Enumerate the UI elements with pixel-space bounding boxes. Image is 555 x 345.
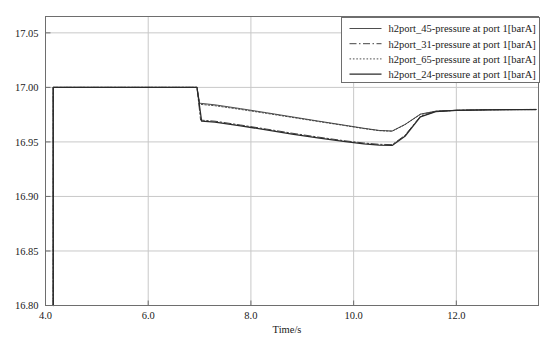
y-tick-label: 17.05: [15, 28, 39, 39]
x-tick-label: 8.0: [244, 310, 257, 321]
x-tick-label: 12.0: [447, 310, 465, 321]
legend-label-3: h2port_24-pressure at port 1[barA]: [389, 69, 536, 80]
x-tick-label: 10.0: [344, 310, 362, 321]
x-tick-label: 6.0: [142, 310, 155, 321]
chart-container: 16.8016.8516.9016.9517.0017.054.06.08.01…: [0, 0, 555, 345]
x-tick-label: 4.0: [39, 310, 52, 321]
y-tick-label: 16.90: [15, 191, 39, 202]
legend-label-2: h2port_65-pressure at port 1[barA]: [389, 54, 536, 65]
y-tick-label: 16.85: [15, 246, 39, 257]
y-tick-label: 16.80: [15, 300, 39, 311]
x-axis-title: Time/s: [273, 324, 302, 335]
y-tick-label: 17.00: [15, 82, 39, 93]
legend-label-1: h2port_31-pressure at port 1[barA]: [389, 39, 536, 50]
legend-label-0: h2port_45-pressure at port 1[barA]: [389, 23, 536, 34]
line-chart: 16.8016.8516.9016.9517.0017.054.06.08.01…: [0, 0, 555, 345]
y-tick-label: 16.95: [15, 137, 39, 148]
